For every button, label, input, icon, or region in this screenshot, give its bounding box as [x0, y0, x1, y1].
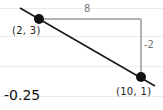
rise-label: -2 [144, 40, 154, 50]
point-10-1 [136, 72, 146, 82]
point-label-10-1: (10, 1) [116, 87, 151, 97]
slope-value: -0.25 [4, 88, 40, 102]
point-label-2-3: (2, 3) [12, 26, 41, 36]
point-2-3 [34, 14, 44, 24]
run-label: 8 [84, 4, 90, 14]
